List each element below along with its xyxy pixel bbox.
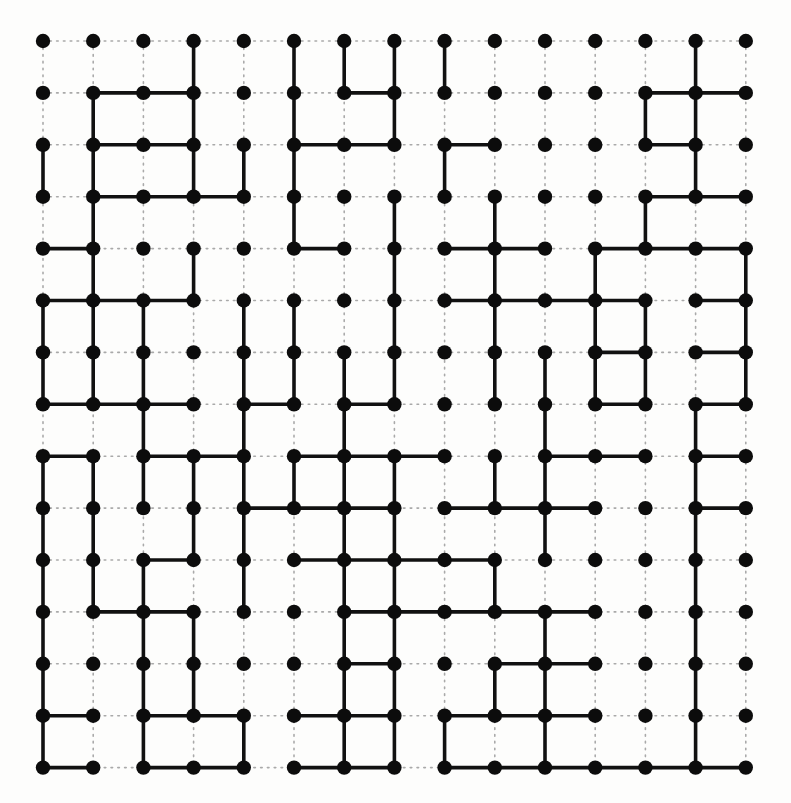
lattice-node: [237, 397, 251, 411]
lattice-node: [36, 709, 50, 723]
lattice-node: [186, 293, 200, 307]
lattice-node: [86, 293, 100, 307]
lattice-node: [437, 709, 451, 723]
lattice-node: [538, 449, 552, 463]
lattice-node: [287, 657, 301, 671]
lattice-node: [186, 657, 200, 671]
lattice-node: [186, 501, 200, 515]
lattice-node: [387, 345, 401, 359]
lattice-node: [387, 190, 401, 204]
lattice-node: [337, 605, 351, 619]
lattice-node: [688, 293, 702, 307]
lattice-node: [638, 657, 652, 671]
lattice-node: [488, 190, 502, 204]
lattice-node: [36, 190, 50, 204]
lattice-node: [186, 190, 200, 204]
lattice-node: [739, 553, 753, 567]
lattice-node: [739, 293, 753, 307]
lattice-node: [437, 501, 451, 515]
lattice-node: [136, 553, 150, 567]
lattice-node: [588, 553, 602, 567]
lattice-node: [387, 553, 401, 567]
lattice-node: [538, 86, 552, 100]
lattice-node: [688, 709, 702, 723]
lattice-node: [538, 397, 552, 411]
lattice-node: [437, 86, 451, 100]
lattice-node: [337, 501, 351, 515]
lattice-node: [688, 397, 702, 411]
lattice-node: [337, 760, 351, 774]
lattice-node: [437, 345, 451, 359]
lattice-node: [638, 605, 652, 619]
lattice-node: [186, 709, 200, 723]
lattice-canvas: [0, 0, 791, 803]
lattice-node: [538, 605, 552, 619]
lattice-node: [136, 397, 150, 411]
lattice-node: [36, 138, 50, 152]
lattice-node: [337, 449, 351, 463]
lattice-node: [638, 138, 652, 152]
lattice-node: [287, 293, 301, 307]
lattice-node: [437, 553, 451, 567]
lattice-node: [337, 397, 351, 411]
lattice-node: [36, 293, 50, 307]
lattice-node: [337, 657, 351, 671]
lattice-node: [739, 138, 753, 152]
lattice-node: [739, 345, 753, 359]
lattice-node: [488, 605, 502, 619]
lattice-node: [237, 86, 251, 100]
lattice-node: [287, 449, 301, 463]
lattice-node: [86, 553, 100, 567]
lattice-node: [237, 709, 251, 723]
lattice-node: [739, 190, 753, 204]
lattice-node: [237, 657, 251, 671]
lattice-node: [337, 86, 351, 100]
lattice-node: [437, 138, 451, 152]
lattice-node: [688, 190, 702, 204]
lattice-node: [488, 241, 502, 255]
lattice-node: [86, 501, 100, 515]
lattice-node: [588, 34, 602, 48]
lattice-node: [638, 760, 652, 774]
lattice-node: [136, 449, 150, 463]
lattice-node: [186, 86, 200, 100]
lattice-node: [538, 138, 552, 152]
lattice-node: [538, 190, 552, 204]
lattice-node: [387, 241, 401, 255]
lattice-node: [387, 86, 401, 100]
lattice-node: [387, 138, 401, 152]
lattice-node: [287, 553, 301, 567]
lattice-node: [237, 553, 251, 567]
lattice-node: [488, 709, 502, 723]
lattice-node: [287, 760, 301, 774]
lattice-node: [186, 397, 200, 411]
lattice-node: [136, 345, 150, 359]
lattice-node: [86, 709, 100, 723]
lattice-node: [437, 397, 451, 411]
lattice-node: [588, 501, 602, 515]
lattice-node: [186, 449, 200, 463]
lattice-node: [638, 709, 652, 723]
lattice-node: [136, 760, 150, 774]
lattice-node: [638, 553, 652, 567]
lattice-node: [387, 293, 401, 307]
lattice-node: [538, 293, 552, 307]
lattice-node: [488, 760, 502, 774]
lattice-node: [488, 34, 502, 48]
lattice-node: [237, 605, 251, 619]
lattice-node: [237, 760, 251, 774]
lattice-node: [86, 657, 100, 671]
lattice-node: [287, 34, 301, 48]
lattice-node: [287, 241, 301, 255]
lattice-figure: [0, 0, 791, 803]
lattice-node: [588, 190, 602, 204]
lattice-node: [437, 293, 451, 307]
lattice-node: [638, 241, 652, 255]
lattice-node: [437, 760, 451, 774]
lattice-node: [538, 657, 552, 671]
lattice-node: [337, 293, 351, 307]
lattice-node: [36, 34, 50, 48]
lattice-node: [287, 86, 301, 100]
lattice-node: [588, 86, 602, 100]
lattice-node: [437, 241, 451, 255]
